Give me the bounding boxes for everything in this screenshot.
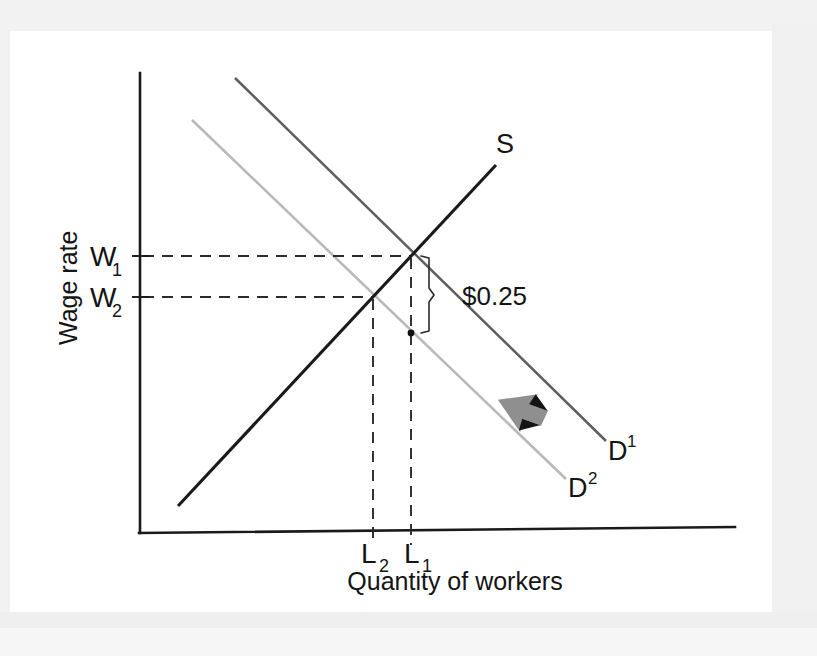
wage2-label-subscript: 2 <box>112 301 122 321</box>
wage1-label: W 1 <box>90 241 122 280</box>
shift-arrow-head <box>489 380 552 439</box>
demand-curve-1-label-superscript: 1 <box>627 432 636 451</box>
demand-curve-2-label-superscript: 2 <box>588 469 597 488</box>
x-axis-title: Quantity of workers <box>347 567 562 595</box>
x-axis <box>139 527 735 533</box>
figure-page: S D 1 D 2 W 1 W 2 L 2 L 1 $0.25 Wa <box>0 0 817 656</box>
demand-curve-1-label: D 1 <box>608 432 636 466</box>
supply-curve-label: S <box>496 129 514 159</box>
demand-curve-1-label-text: D <box>608 436 628 466</box>
demand-curve-2-label: D 2 <box>568 469 597 503</box>
wage1-label-subscript: 1 <box>112 260 122 280</box>
shift-amount-label: $0.25 <box>462 281 527 311</box>
chart-axes <box>139 73 735 533</box>
qty1-label-text: L <box>404 538 420 569</box>
supply-demand-chart: S D 1 D 2 W 1 W 2 L 2 L 1 $0.25 Wa <box>0 0 817 656</box>
demand-curve-2-label-text: D <box>568 473 588 503</box>
shift-endpoint-dot <box>408 330 415 337</box>
y-axis-title: Wage rate <box>54 231 82 345</box>
qty2-label-text: L <box>361 538 377 569</box>
shift-arrow <box>489 380 552 439</box>
supply-curve <box>178 165 496 506</box>
wage2-label: W 2 <box>90 282 122 321</box>
